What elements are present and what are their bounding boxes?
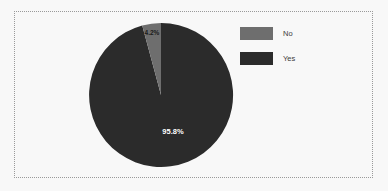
legend-label-yes: Yes xyxy=(283,52,295,65)
legend-item-yes[interactable]: Yes xyxy=(240,52,350,65)
legend-swatch-no-icon xyxy=(240,27,273,40)
pie-chart-figure: 4.2% 95.8% No Yes xyxy=(0,0,388,191)
legend-label-no: No xyxy=(283,27,293,40)
chart-legend: No Yes xyxy=(240,27,350,77)
pie-slice-yes[interactable] xyxy=(89,23,233,167)
pie-slice-label-yes: 95.8% xyxy=(162,127,184,136)
pie-slice-label-no: 4.2% xyxy=(145,29,160,36)
legend-item-no[interactable]: No xyxy=(240,27,350,40)
legend-swatch-yes-icon xyxy=(240,52,273,65)
